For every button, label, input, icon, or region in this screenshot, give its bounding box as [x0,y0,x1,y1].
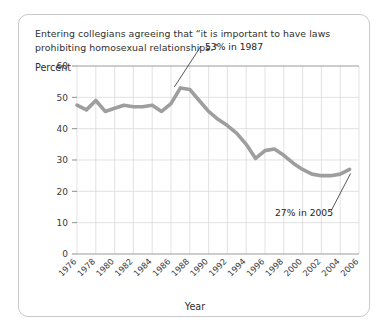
annotation-end-label: 27% in 2005 [275,207,333,218]
annotation-end: 27% in 2005 [275,173,351,218]
y-tick-label: 50 [57,93,69,103]
annotation-peak-label: 53% in 1987 [205,41,263,52]
x-tick-label: 1990 [188,256,210,278]
y-tick-label: 0 [62,249,68,259]
y-tick-label: 20 [57,187,69,197]
figure-panel: Entering collegians agreeing that “it is… [18,14,370,317]
line-chart-svg: 0102030405060 19761978198019821984198619… [19,15,371,318]
y-axis-ticks [72,66,77,254]
x-tick-label: 1986 [150,256,172,278]
x-tick-label: 1996 [244,256,266,278]
data-series-line [77,88,350,176]
y-tick-label: 30 [57,155,69,165]
x-tick-label: 1988 [169,256,191,278]
x-axis-title: Year [184,301,205,312]
x-tick-label: 2006 [338,256,360,278]
annotation-end-leader-line [331,173,351,211]
x-tick-label: 2000 [282,256,304,278]
x-tick-label: 1980 [94,256,116,278]
x-tick-label: 1976 [56,256,78,278]
annotation-peak: 53% in 1987 [174,41,263,87]
x-tick-label: 1994 [225,256,247,278]
x-tick-label: 1978 [75,256,97,278]
x-axis-tick-labels: 1976197819801982198419861988199019921994… [56,256,360,278]
x-tick-label: 2004 [319,256,341,278]
x-tick-label: 1992 [207,256,229,278]
x-tick-label: 2002 [301,256,323,278]
grid-lines [77,66,359,254]
y-axis-tick-labels: 0102030405060 [57,61,69,259]
chart-plot-area: 0102030405060 19761978198019821984198619… [19,15,371,318]
y-tick-label: 40 [57,124,69,134]
y-axis-title: Percent [35,62,71,73]
x-tick-label: 1998 [263,256,285,278]
x-tick-label: 1982 [113,256,135,278]
x-tick-label: 1984 [131,256,153,278]
y-tick-label: 10 [57,218,69,228]
